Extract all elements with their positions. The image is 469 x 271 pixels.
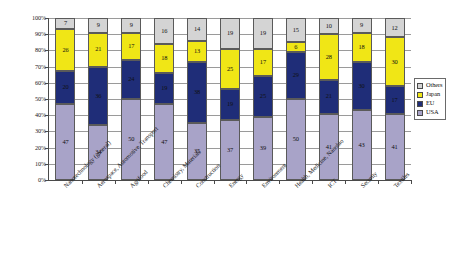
bar-segment-eu[interactable]: 25 <box>253 76 273 117</box>
bar-segment-value: 50 <box>293 136 299 142</box>
bar-segment-usa[interactable]: 41 <box>385 114 405 180</box>
bar-segment-others[interactable]: 19 <box>220 18 240 49</box>
bar-segment-value: 36 <box>95 93 101 99</box>
legend-item[interactable]: Others <box>417 81 442 90</box>
bar-segment-value: 6 <box>294 44 297 50</box>
bar-segment-others[interactable]: 19 <box>253 18 273 49</box>
bar-segment-usa[interactable]: 39 <box>253 117 273 180</box>
bar-segment-others[interactable]: 9 <box>352 18 372 33</box>
x-axis-labels: Nanotechnology (general)Aerospace, Autom… <box>0 182 469 271</box>
bar-segment-value: 28 <box>326 54 332 60</box>
bar-segment-value: 15 <box>293 27 299 33</box>
bar-segment-japan[interactable]: 17 <box>121 33 141 61</box>
y-axis-tick-label: 30% <box>6 128 46 134</box>
bar-column[interactable]: 37192519 <box>220 18 240 180</box>
bar-segment-japan[interactable]: 6 <box>286 42 306 52</box>
legend-label: EU <box>426 100 434 106</box>
bar-segment-eu[interactable]: 19 <box>154 73 174 104</box>
bar-segment-value: 39 <box>260 145 266 151</box>
bar-segment-others[interactable]: 12 <box>385 18 405 37</box>
bar-segment-value: 38 <box>194 89 200 95</box>
bar-segment-others[interactable]: 7 <box>55 18 75 29</box>
y-axis-tick-label: 100% <box>6 15 46 21</box>
bar-segment-value: 30 <box>391 59 397 65</box>
bar-segment-eu[interactable]: 21 <box>319 80 339 114</box>
bar-segment-others[interactable]: 10 <box>319 18 339 34</box>
stacked-bar-chart: 0%10%20%30%40%50%60%70%80%90%100% 472026… <box>0 0 469 271</box>
bar-segment-japan[interactable]: 18 <box>352 33 372 62</box>
bar-segment-value: 41 <box>391 144 397 150</box>
bar-column[interactable]: 39251719 <box>253 18 273 180</box>
bar-segment-value: 29 <box>293 72 299 78</box>
bar-column[interactable]: 5029615 <box>286 18 306 180</box>
bar-segment-others[interactable]: 14 <box>187 18 207 41</box>
legend-label: Others <box>426 82 442 88</box>
bar-segment-usa[interactable]: 43 <box>352 110 372 180</box>
bar-segment-eu[interactable]: 30 <box>352 62 372 111</box>
bar-segment-value: 14 <box>194 26 200 32</box>
bar-segment-value: 9 <box>97 22 100 28</box>
bar-segment-value: 17 <box>128 43 134 49</box>
bar-segment-japan[interactable]: 13 <box>187 41 207 62</box>
bar-segment-usa[interactable]: 37 <box>220 120 240 180</box>
y-axis-tick-label: 60% <box>6 80 46 86</box>
bar-segment-value: 37 <box>227 147 233 153</box>
bar-segment-value: 47 <box>62 139 68 145</box>
bar-segment-value: 24 <box>128 76 134 82</box>
bar-segment-value: 18 <box>359 44 365 50</box>
bar-segment-value: 19 <box>260 30 266 36</box>
bar-segment-japan[interactable]: 25 <box>220 49 240 90</box>
y-axis-tick-label: 40% <box>6 112 46 118</box>
bar-column[interactable]: 41173012 <box>385 18 405 180</box>
y-axis-tick-label: 90% <box>6 31 46 37</box>
bar-segment-eu[interactable]: 20 <box>55 71 75 103</box>
bar-segment-value: 21 <box>326 93 332 99</box>
bar-segment-usa[interactable]: 47 <box>154 104 174 180</box>
bar-segment-value: 10 <box>326 23 332 29</box>
bar-segment-value: 43 <box>359 142 365 148</box>
bar-segment-eu[interactable]: 29 <box>286 52 306 99</box>
bar-segment-japan[interactable]: 28 <box>319 34 339 79</box>
bar-column[interactable]: 4720267 <box>55 18 75 180</box>
bar-segment-japan[interactable]: 30 <box>385 37 405 86</box>
bar-segment-eu[interactable]: 24 <box>121 60 141 99</box>
bar-segment-others[interactable]: 9 <box>121 18 141 33</box>
bar-segment-value: 25 <box>260 93 266 99</box>
plot-area: 4720267343621950241794719181635381314371… <box>48 18 411 181</box>
bar-segment-japan[interactable]: 18 <box>154 44 174 73</box>
bar-segment-value: 30 <box>359 83 365 89</box>
bars-layer: 4720267343621950241794719181635381314371… <box>49 18 411 180</box>
bar-column[interactable]: 4330189 <box>352 18 372 180</box>
legend-item[interactable]: EU <box>417 99 442 108</box>
bar-segment-value: 7 <box>64 20 67 26</box>
bar-segment-others[interactable]: 16 <box>154 18 174 44</box>
legend-label: USA <box>426 109 439 115</box>
bar-segment-usa[interactable]: 50 <box>286 99 306 180</box>
bar-segment-japan[interactable]: 26 <box>55 29 75 71</box>
bar-segment-others[interactable]: 15 <box>286 18 306 42</box>
bar-segment-value: 19 <box>227 30 233 36</box>
bar-segment-value: 19 <box>161 85 167 91</box>
bar-segment-usa[interactable]: 47 <box>55 104 75 180</box>
bar-segment-eu[interactable]: 36 <box>88 67 108 125</box>
bar-segment-value: 18 <box>161 55 167 61</box>
bar-segment-eu[interactable]: 38 <box>187 62 207 124</box>
bar-segment-value: 13 <box>194 48 200 54</box>
bar-segment-eu[interactable]: 17 <box>385 86 405 114</box>
bar-segment-value: 19 <box>227 101 233 107</box>
bar-segment-value: 16 <box>161 28 167 34</box>
bar-segment-value: 17 <box>391 97 397 103</box>
bar-segment-value: 9 <box>130 22 133 28</box>
bar-segment-others[interactable]: 9 <box>88 18 108 33</box>
bar-segment-japan[interactable]: 17 <box>253 49 273 77</box>
bar-segment-value: 12 <box>391 25 397 31</box>
legend-item[interactable]: Japan <box>417 90 442 99</box>
y-axis: 0%10%20%30%40%50%60%70%80%90%100% <box>6 18 46 180</box>
bar-segment-value: 26 <box>62 47 68 53</box>
bar-segment-eu[interactable]: 19 <box>220 89 240 120</box>
bar-segment-japan[interactable]: 21 <box>88 33 108 67</box>
bar-column[interactable]: 47191816 <box>154 18 174 180</box>
legend-item[interactable]: USA <box>417 108 442 117</box>
y-axis-tick-label: 50% <box>6 96 46 102</box>
y-axis-tick-label: 20% <box>6 145 46 151</box>
